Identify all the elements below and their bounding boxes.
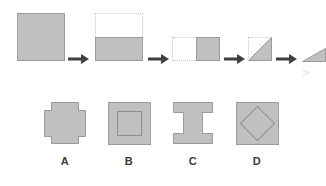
i-beam-square-shape [169,98,217,148]
sequence-arrow-3 [224,51,246,69]
sequence-step-fold-bottom-half [95,13,143,61]
folded-triangle-clipped [302,48,326,62]
arrow-right-icon [68,53,90,65]
option-b-label: B [98,155,160,167]
option-a-label: A [34,155,96,167]
sequence-arrow-1 [68,51,90,69]
sequence-step-folded-result-cropped [302,48,326,62]
sequence-step-fold-right-half [172,37,220,61]
option-c-figure [169,98,217,148]
sequence-arrow-4 [276,51,298,69]
folded-triangle [248,37,272,61]
arrow-right-icon [224,53,246,65]
answer-option-d[interactable]: D [226,93,288,186]
fold-sequence-row: > [0,0,320,93]
option-c-label: C [162,155,224,167]
solid-square [17,13,65,61]
sequence-step-fold-diagonal [248,37,272,61]
answer-options-row: A B C D [0,93,320,186]
inner-square-outline [117,111,142,136]
option-d-figure [233,98,281,148]
sequence-arrow-2 [148,51,170,69]
folded-right-half [196,37,220,61]
stray-chevron-mark: > [302,66,310,79]
option-d-label: D [226,155,288,167]
option-a-figure [41,98,89,148]
folded-bottom-half [95,37,143,61]
sequence-step-unfolded-square [17,13,65,61]
arrow-right-icon [148,53,170,65]
arrow-right-icon [276,53,298,65]
option-b-figure [105,98,153,148]
answer-option-b[interactable]: B [98,93,160,186]
answer-option-a[interactable]: A [34,93,96,186]
cross-notched-square-shape [41,98,89,148]
answer-option-c[interactable]: C [162,93,224,186]
